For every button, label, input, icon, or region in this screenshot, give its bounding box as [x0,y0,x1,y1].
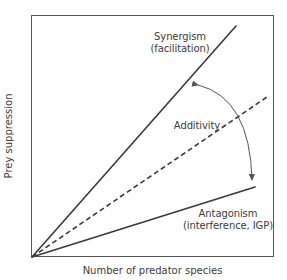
additivity-line [32,97,267,257]
antagonism-label-title: Antagonism [180,208,276,220]
x-axis-label: Number of predator species [31,265,274,277]
antagonism-label-subtitle: (interference, IGP) [180,220,276,232]
additivity-label: Additivity [168,120,226,132]
y-axis-label: Prey suppression [3,81,15,191]
synergism-label-subtitle: (facilitation) [146,43,214,55]
synergism-label-title: Synergism [146,31,214,43]
synergism-label: Synergism (facilitation) [146,31,214,55]
curved-double-arrow-icon [198,85,252,180]
antagonism-label: Antagonism (interference, IGP) [180,208,276,232]
plot-lines [0,0,287,280]
predator-diversity-diagram: Synergism (facilitation) Additivity Anta… [0,0,287,280]
